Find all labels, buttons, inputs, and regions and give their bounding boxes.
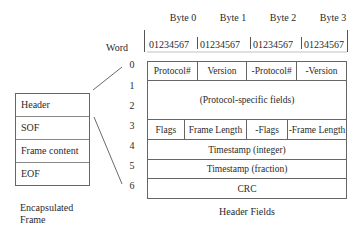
connector-line-top: [93, 67, 122, 90]
connector-lines: [0, 0, 363, 233]
connector-line-bottom: [94, 117, 122, 184]
